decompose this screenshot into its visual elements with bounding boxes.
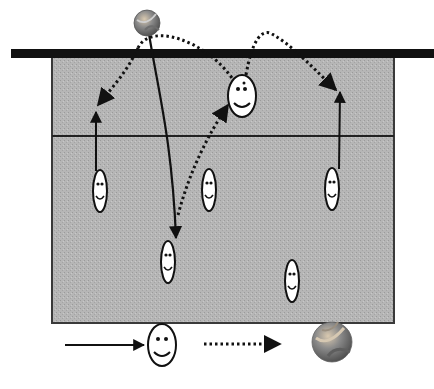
player-center-back-icon [161, 241, 175, 283]
player-middle-icon [202, 169, 216, 211]
right-back-approach [339, 92, 340, 169]
legend-ball-icon [312, 322, 352, 362]
player-far-right-back-icon [285, 260, 299, 302]
legend-player-icon [148, 324, 176, 366]
ball-icon [134, 10, 160, 36]
court-diagram-canvas [0, 0, 434, 389]
player-left-back-icon [93, 170, 107, 212]
player-right-back-icon [325, 168, 339, 210]
legend [65, 322, 352, 366]
player-setter-icon [228, 75, 256, 117]
net [11, 49, 434, 58]
